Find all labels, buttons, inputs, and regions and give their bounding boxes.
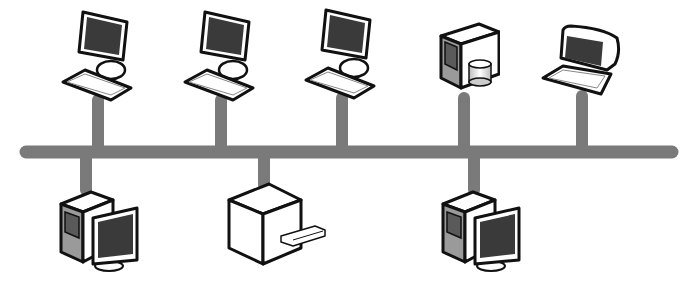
tower-pc-with-monitor-icon: [61, 192, 137, 271]
file-server-icon: [441, 24, 499, 88]
bus-topology-diagram: [0, 0, 686, 283]
tower-pc-with-monitor-icon: [443, 192, 519, 271]
printer-icon: [229, 184, 325, 264]
bottom-drop-cables: [86, 155, 474, 190]
bottom-devices: [61, 184, 519, 271]
top-drop-cables: [98, 96, 582, 150]
desktop-computer-icon: [63, 12, 131, 100]
laptop-icon: [543, 26, 619, 94]
desktop-computer-icon: [306, 10, 374, 98]
top-devices: [63, 10, 619, 100]
desktop-computer-icon: [185, 12, 253, 100]
